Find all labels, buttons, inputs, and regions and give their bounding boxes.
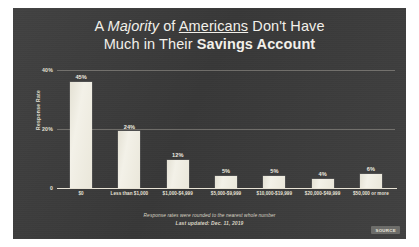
x-axis-line <box>57 188 397 189</box>
page-title: A Majority of Americans Don't Have Much … <box>13 18 406 53</box>
bar-3[interactable] <box>215 176 237 188</box>
bar-0[interactable] <box>70 82 92 188</box>
bar-4[interactable] <box>263 176 285 188</box>
x-label-1: Less than $1,000 <box>111 191 149 196</box>
plot-area: 0 20% 40% 45% 24% 12% 5% 5% <box>57 70 395 188</box>
y-tick-0: 0 <box>50 185 53 191</box>
bar-1[interactable] <box>118 131 140 188</box>
title-line-1: A Majority of Americans Don't Have <box>13 18 406 36</box>
bar-value-6: 6% <box>367 166 375 172</box>
x-label-2: $1,000-$4,999 <box>163 191 193 196</box>
source-badge[interactable]: SOURCE <box>371 226 400 234</box>
x-label-6: $50,000 or more <box>353 191 389 196</box>
bar-slot-1: 24% <box>105 70 153 188</box>
bar-value-4: 5% <box>270 168 278 174</box>
infographic-card: A Majority of Americans Don't Have Much … <box>13 8 406 239</box>
footnote-rounding: Response rates were rounded to the neare… <box>13 213 406 218</box>
title-emphasis-americans: Americans <box>179 18 248 34</box>
bar-6[interactable] <box>360 174 382 188</box>
x-axis-labels: $0 Less than $1,000 $1,000-$4,999 $5,000… <box>57 191 397 203</box>
bar-slot-6: 6% <box>347 70 395 188</box>
title-emphasis-majority: Majority <box>107 18 159 34</box>
bar-value-1: 24% <box>124 124 136 130</box>
bar-value-5: 4% <box>318 171 326 177</box>
x-label-4: $10,000-$19,999 <box>257 191 293 196</box>
x-label-0: $0 <box>78 191 83 196</box>
bar-series: 45% 24% 12% 5% 5% 4% <box>57 70 395 188</box>
title-text-a: A <box>94 18 107 34</box>
title-text-much-in-their: Much in Their <box>104 36 197 52</box>
bar-value-0: 45% <box>75 74 87 80</box>
bar-slot-3: 5% <box>202 70 250 188</box>
footer: Response rates were rounded to the neare… <box>13 213 406 226</box>
bar-2[interactable] <box>167 160 189 188</box>
bar-value-2: 12% <box>172 152 184 158</box>
bar-value-3: 5% <box>222 168 230 174</box>
title-line-2: Much in Their Savings Account <box>13 36 406 54</box>
bar-slot-4: 5% <box>250 70 298 188</box>
title-text-dont-have: Don't Have <box>248 18 324 34</box>
bar-slot-0: 45% <box>57 70 105 188</box>
bar-slot-2: 12% <box>154 70 202 188</box>
bar-slot-5: 4% <box>299 70 347 188</box>
title-text-of: of <box>159 18 179 34</box>
bar-5[interactable] <box>312 179 334 188</box>
y-tick-40: 40% <box>42 67 53 73</box>
y-tick-20: 20% <box>42 126 53 132</box>
x-label-3: $5,000-$9,999 <box>211 191 241 196</box>
title-emphasis-savings-account: Savings Account <box>197 36 316 52</box>
footnote-last-updated: Last updated: Dec. 11, 2019 <box>13 220 406 226</box>
x-label-5: $20,000-$49,999 <box>305 191 341 196</box>
y-axis-label: Response Rate <box>35 90 41 130</box>
